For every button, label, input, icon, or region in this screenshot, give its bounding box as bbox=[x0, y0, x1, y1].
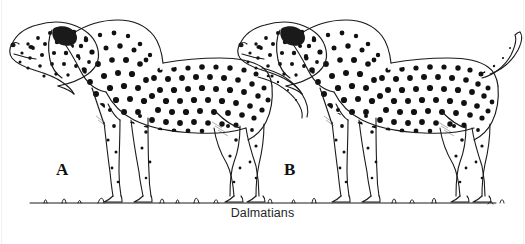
dog-b-tail bbox=[482, 32, 522, 78]
figure-caption: Dalmatians bbox=[0, 206, 525, 220]
dog-a-eye bbox=[28, 45, 33, 49]
dog-b-eye bbox=[256, 45, 261, 49]
panel-label-a: A bbox=[56, 160, 68, 180]
dog-a-nose bbox=[10, 43, 15, 47]
dog-b-nose bbox=[238, 43, 243, 47]
dog-b-legs bbox=[332, 104, 491, 202]
dog-b-body-spots bbox=[298, 31, 495, 134]
dog-b-group bbox=[238, 20, 522, 202]
panel-label-b: B bbox=[284, 160, 295, 180]
ground-line bbox=[30, 198, 504, 204]
dog-a-legs bbox=[104, 104, 265, 202]
dalmatians-figure: A B Dalmatians bbox=[0, 0, 525, 244]
dog-a-group bbox=[10, 20, 308, 202]
dog-a-head bbox=[10, 22, 99, 94]
